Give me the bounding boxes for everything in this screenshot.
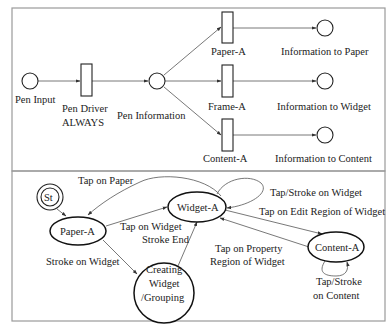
label-stroke-end: Stroke End: [142, 234, 190, 245]
transition-frame-a: [222, 65, 233, 97]
edge-content-self-loop: [322, 261, 348, 276]
label-tap-on-edit-region: Tap on Edit Region of Widget: [259, 206, 385, 217]
label-frame-a: Frame-A: [208, 101, 246, 112]
label-pen-driver-always: ALWAYS: [62, 117, 104, 128]
place-info-to-widget: [317, 73, 333, 89]
label-creating-line3: /Grouping: [141, 292, 185, 303]
label-tap-on-paper: Tap on Paper: [78, 175, 134, 186]
label-info-to-content: Information to Content: [275, 153, 372, 164]
place-pen-information: [149, 73, 165, 89]
label-tap-on-property-line1: Tap on Property: [215, 243, 283, 254]
label-state-content-a: Content-A: [315, 242, 360, 253]
label-tap-stroke-on-widget: Tap/Stroke on Widget: [270, 187, 362, 198]
label-tap-on-widget: Tap on Widget: [120, 221, 182, 232]
label-tap-stroke-content-line2: on Content: [313, 290, 359, 301]
label-info-to-widget: Information to Widget: [277, 101, 371, 112]
label-paper-a: Paper-A: [211, 46, 246, 57]
place-info-to-content: [317, 127, 333, 143]
edge-start-to-paper-a: [57, 209, 66, 216]
label-state-paper-a: Paper-A: [60, 226, 95, 237]
label-stroke-on-widget: Stroke on Widget: [46, 256, 120, 267]
place-pen-input: [22, 73, 38, 89]
transition-content-a: [222, 119, 233, 151]
label-pen-driver: Pen Driver: [62, 103, 108, 114]
label-content-a: Content-A: [203, 153, 248, 164]
label-tap-stroke-content-line1: Tap/Stroke: [316, 276, 362, 287]
label-start: St: [44, 192, 53, 203]
label-state-widget-a: Widget-A: [177, 202, 219, 213]
petri-net: Pen Input Pen Driver ALWAYS Pen Informat…: [15, 12, 372, 164]
state-machine: St Paper-A Widget-A Content-A Creating W…: [37, 175, 385, 323]
label-tap-on-property-line2: Region of Widget: [210, 256, 285, 267]
transition-paper-a: [222, 12, 233, 43]
place-info-to-paper: [317, 20, 333, 36]
label-pen-information: Pen Information: [117, 110, 186, 121]
label-creating-line1: Creating: [146, 264, 183, 275]
transition-pen-driver: [81, 64, 92, 96]
label-info-to-paper: Information to Paper: [281, 46, 369, 57]
diagram-canvas: Pen Input Pen Driver ALWAYS Pen Informat…: [0, 0, 391, 333]
label-creating-line2: Widget: [149, 278, 180, 289]
label-pen-input: Pen Input: [15, 94, 56, 105]
